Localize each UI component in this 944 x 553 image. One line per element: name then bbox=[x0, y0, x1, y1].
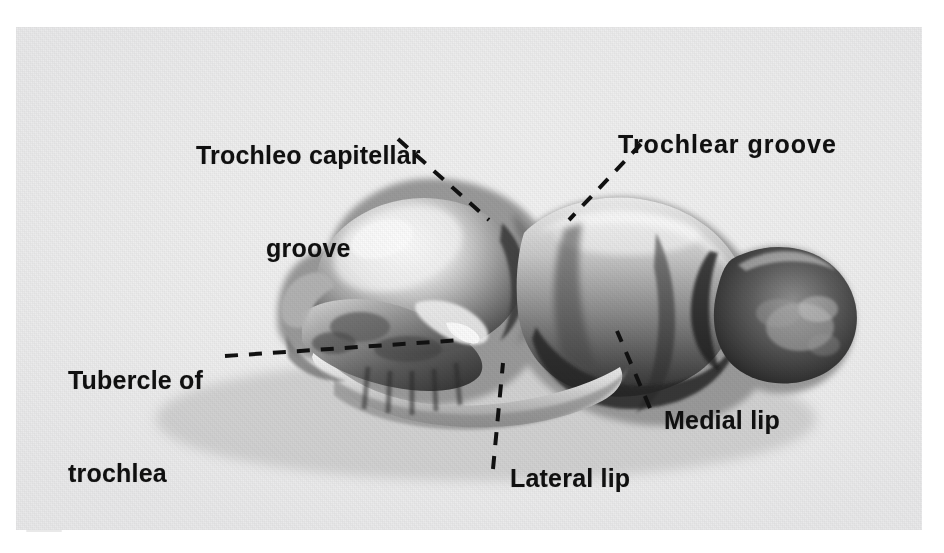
label-tubercle-of-trochlea-line1: Tubercle of bbox=[68, 365, 203, 396]
label-tubercle-of-trochlea-line2: trochlea bbox=[68, 458, 203, 489]
label-lateral-lip: Lateral lip bbox=[510, 463, 630, 494]
scan-artifact-bottom bbox=[26, 530, 62, 532]
label-trochlear-groove: Trochlear groove bbox=[618, 129, 837, 160]
label-medial-lip: Medial lip bbox=[664, 405, 780, 436]
label-trochleo-capitellar-groove-line2: groove bbox=[196, 233, 421, 264]
figure-root: Trochleo capitellar groove Trochlear gro… bbox=[0, 0, 944, 553]
label-trochleo-capitellar-groove: Trochleo capitellar groove bbox=[196, 78, 421, 326]
label-tubercle-of-trochlea: Tubercle of trochlea bbox=[68, 303, 203, 551]
label-trochleo-capitellar-groove-line1: Trochleo capitellar bbox=[196, 140, 421, 171]
